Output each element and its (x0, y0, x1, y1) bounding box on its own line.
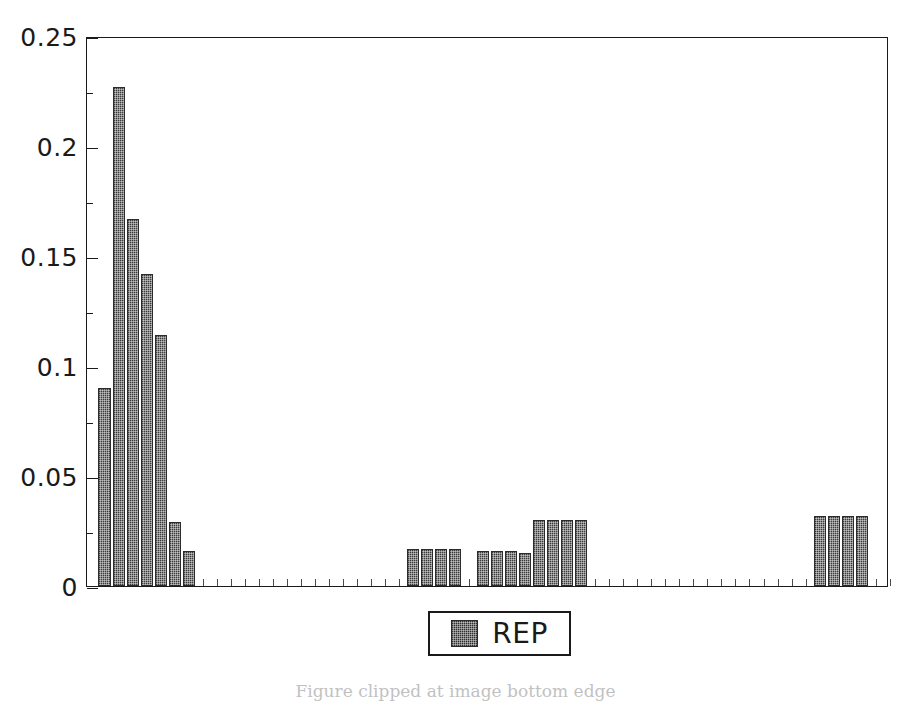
y-axis-major-tick (87, 38, 98, 39)
y-axis-major-tick (87, 478, 98, 479)
x-axis-tick (259, 579, 260, 586)
bar (828, 516, 840, 586)
x-axis-tick (399, 579, 400, 586)
figure-caption-text: Figure clipped at image bottom edge (296, 684, 616, 701)
x-axis-tick (665, 579, 666, 586)
x-axis-tick (749, 579, 750, 586)
bar (155, 335, 167, 586)
x-axis-tick (357, 579, 358, 586)
bar (814, 516, 826, 586)
bar (477, 551, 489, 586)
bar (561, 520, 573, 586)
x-axis-tick (595, 579, 596, 586)
bar (407, 549, 419, 586)
bar (127, 219, 139, 586)
x-axis-tick (371, 579, 372, 586)
x-axis-tick (876, 579, 877, 586)
x-axis-tick (651, 579, 652, 586)
x-axis-tick (329, 579, 330, 586)
plot-area (86, 37, 888, 587)
y-axis-minor-tick (87, 313, 93, 314)
x-axis-tick (721, 579, 722, 586)
bar (435, 549, 447, 586)
y-axis-minor-tick (87, 203, 93, 204)
x-axis-tick (707, 579, 708, 586)
bar (113, 87, 125, 586)
x-axis-tick (301, 579, 302, 586)
bar (842, 516, 854, 586)
bar (449, 549, 461, 586)
y-axis-major-tick (87, 368, 98, 369)
bar (491, 551, 503, 586)
x-axis-tick (792, 579, 793, 586)
y-axis-minor-tick (87, 533, 93, 534)
y-axis-minor-tick (87, 423, 93, 424)
x-axis-tick (469, 579, 470, 586)
x-axis-tick (385, 579, 386, 586)
bar (547, 520, 559, 586)
x-axis-tick (287, 579, 288, 586)
y-axis: 00.050.10.150.20.25 (0, 0, 78, 702)
x-axis-tick (778, 579, 779, 586)
bar (183, 551, 195, 586)
x-axis-tick (679, 579, 680, 586)
bar (421, 549, 433, 586)
chart-figure: 00.050.10.150.20.25 REP Figure clipped a… (0, 0, 911, 702)
x-axis-tick (609, 579, 610, 586)
bar (141, 274, 153, 586)
x-axis-tick (890, 579, 891, 586)
x-axis-tick (764, 579, 765, 586)
x-axis-tick (231, 579, 232, 586)
y-axis-tick-label: 0.25 (0, 23, 78, 52)
x-axis-tick (623, 579, 624, 586)
x-axis-tick (806, 579, 807, 586)
x-axis-tick (273, 579, 274, 586)
x-axis-tick (315, 579, 316, 586)
x-axis-tick (693, 579, 694, 586)
x-axis-tick (343, 579, 344, 586)
bar (856, 516, 868, 586)
x-axis-tick (637, 579, 638, 586)
bar (519, 553, 531, 586)
bar (575, 520, 587, 586)
legend-swatch-rep (451, 620, 478, 647)
y-axis-major-tick (87, 588, 98, 589)
x-axis-tick (217, 579, 218, 586)
bar (505, 551, 517, 586)
figure-caption: Figure clipped at image bottom edge (0, 684, 911, 702)
bar (169, 522, 181, 586)
y-axis-tick-label: 0.2 (0, 133, 78, 162)
x-axis-tick (203, 579, 204, 586)
y-axis-tick-label: 0 (0, 573, 78, 602)
y-axis-major-tick (87, 148, 98, 149)
x-axis-tick (245, 579, 246, 586)
y-axis-major-tick (87, 258, 98, 259)
y-axis-minor-tick (87, 93, 93, 94)
bar (98, 388, 110, 586)
y-axis-tick-label: 0.15 (0, 243, 78, 272)
y-axis-tick-label: 0.05 (0, 463, 78, 492)
x-axis-tick (735, 579, 736, 586)
y-axis-tick-label: 0.1 (0, 353, 78, 382)
chart-legend: REP (428, 611, 571, 656)
bar (533, 520, 545, 586)
legend-label-rep: REP (492, 620, 548, 648)
